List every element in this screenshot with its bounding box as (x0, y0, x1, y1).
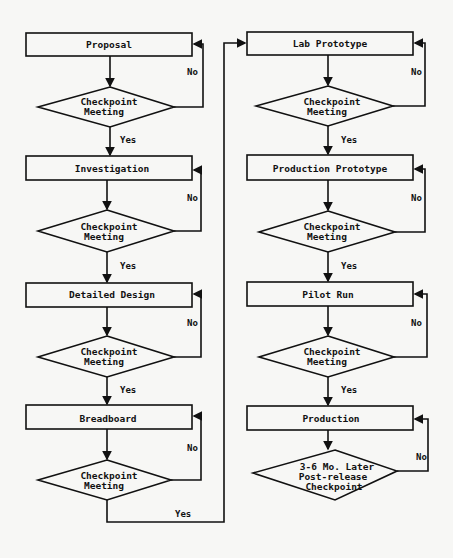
decision-text: Checkpoint (305, 481, 362, 492)
edge-yes: Yes (175, 509, 191, 519)
edge-yes: Yes (120, 385, 136, 395)
decision-text: Meeting (307, 231, 347, 242)
decision-text: Meeting (84, 356, 124, 367)
edge-no: No (416, 452, 427, 462)
decision-text: Meeting (84, 231, 124, 242)
edge-yes: Yes (341, 261, 357, 271)
flowchart: Proposal Checkpoint Meeting No Yes Inves… (0, 0, 453, 558)
edge-no: No (411, 318, 422, 328)
edge-no: No (187, 318, 198, 328)
decision-text: Meeting (307, 356, 347, 367)
decision-text: Meeting (84, 480, 124, 491)
edge-yes: Yes (120, 261, 136, 271)
label-investigation: Investigation (75, 163, 149, 174)
decision-text: Meeting (307, 106, 347, 117)
edge-no: No (411, 67, 422, 77)
label-detailed-design: Detailed Design (69, 289, 155, 300)
edge-yes: Yes (341, 385, 357, 395)
edge-no: No (411, 193, 422, 203)
label-lab-prototype: Lab Prototype (293, 38, 368, 49)
edge-no: No (187, 443, 198, 453)
edge-yes: Yes (341, 135, 357, 145)
label-production-prototype: Production Prototype (273, 163, 388, 174)
label-production: Production (302, 413, 359, 424)
edge-yes: Yes (120, 135, 136, 145)
label-pilot-run: Pilot Run (302, 289, 353, 300)
decision-text: Meeting (84, 106, 124, 117)
edge-no: No (187, 67, 198, 77)
label-breadboard: Breadboard (79, 413, 136, 424)
label-proposal: Proposal (86, 39, 132, 50)
edge-no: No (187, 193, 198, 203)
